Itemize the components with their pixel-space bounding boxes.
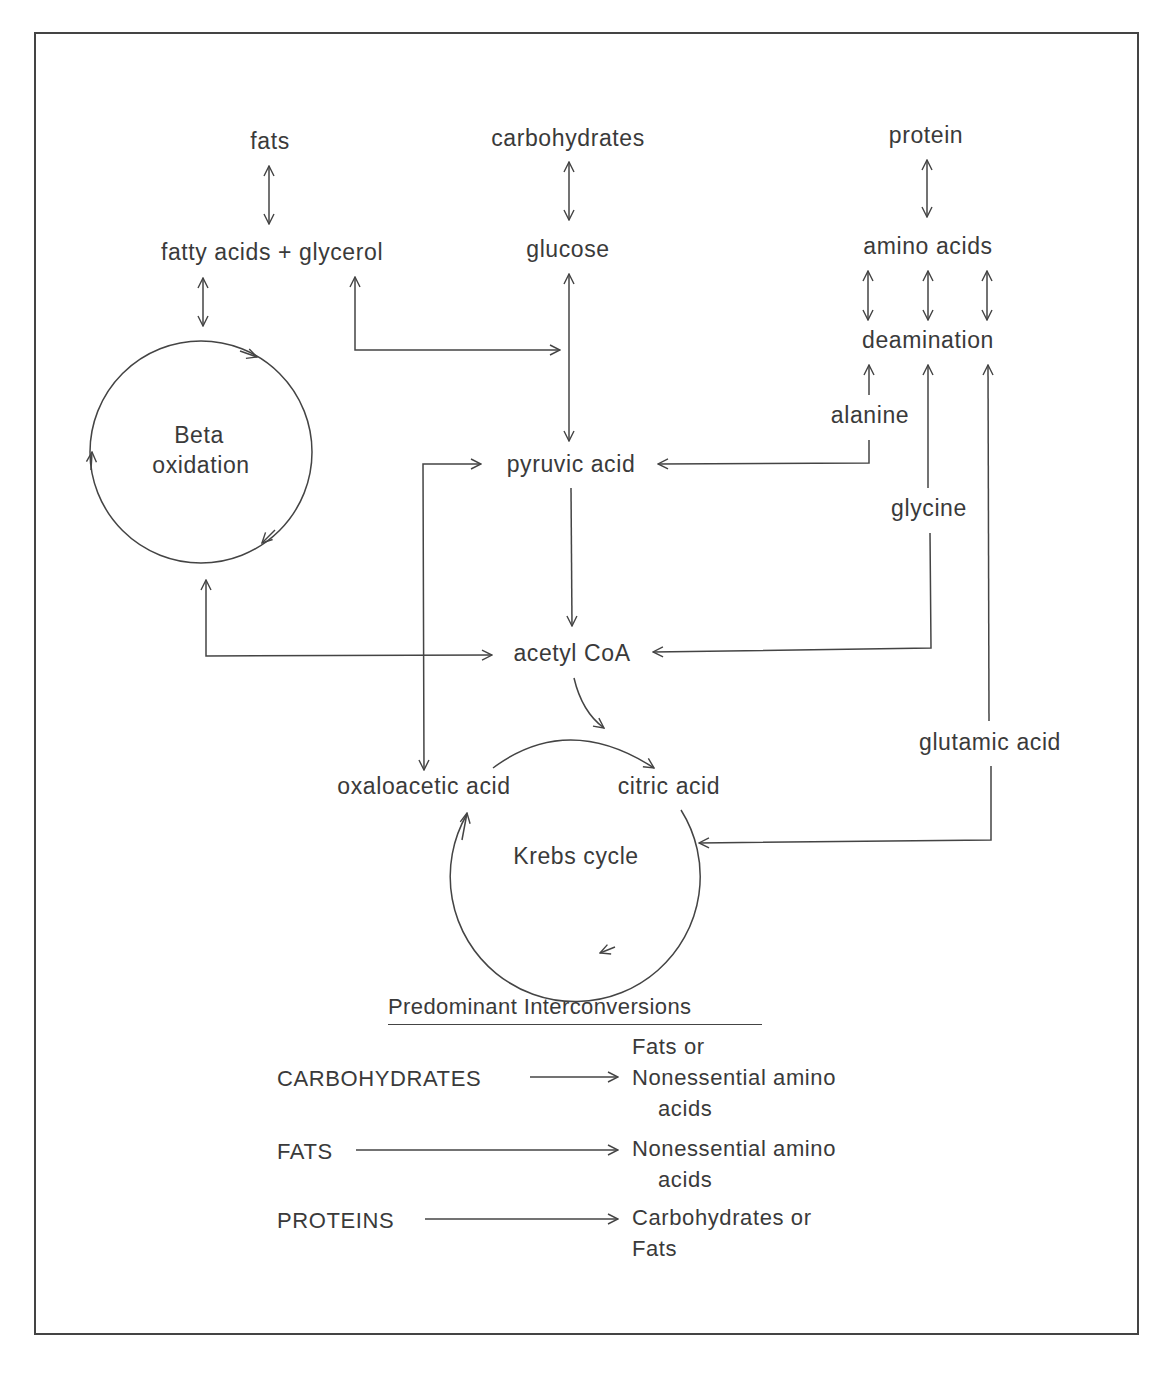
node-beta-oxidation-line1: Beta: [174, 424, 224, 447]
metabolic-pathway-diagram: [0, 0, 1152, 1390]
node-pyruvic-acid: pyruvic acid: [507, 453, 636, 476]
edge-glycerol-glucosepath: [355, 277, 560, 350]
node-glucose: glucose: [526, 238, 609, 261]
legend-source-carbohydrates: CARBOHYDRATES: [277, 1063, 481, 1094]
legend-target-line: Fats: [632, 1233, 812, 1264]
krebs-cycle-circle: [450, 810, 700, 1002]
legend-target-carbohydrates: Fats or Nonessential amino acids: [632, 1031, 836, 1124]
edge-pyruvic-acetylcoa: [571, 488, 572, 626]
legend-target-line: acids: [632, 1164, 836, 1195]
edge-alanine-pyruvic: [658, 440, 869, 464]
node-beta-oxidation-line2: oxidation: [152, 454, 249, 477]
beta-arrow-left: [91, 452, 92, 470]
krebs-top-arc: [493, 740, 654, 768]
node-fatty-acids-glycerol: fatty acids + glycerol: [161, 241, 383, 264]
edge-glutamic-deamination: [988, 365, 989, 721]
node-protein: protein: [889, 124, 964, 147]
legend-source-proteins: PROTEINS: [277, 1205, 394, 1236]
node-glutamic-acid: glutamic acid: [919, 731, 1061, 754]
legend-title: Predominant Interconversions: [388, 994, 762, 1025]
legend-target-line: Fats or: [632, 1031, 836, 1062]
legend-target-fats: Nonessential amino acids: [632, 1133, 836, 1195]
legend-target-line: acids: [632, 1093, 836, 1124]
node-alanine: alanine: [831, 404, 909, 427]
node-citric-acid: citric acid: [618, 775, 720, 798]
node-carbohydrates: carbohydrates: [491, 127, 645, 150]
node-oxaloacetic-acid: oxaloacetic acid: [337, 775, 510, 798]
node-fats: fats: [250, 130, 289, 153]
node-glycine: glycine: [891, 497, 967, 520]
edge-glutamic-krebs: [699, 766, 991, 843]
legend-target-line: Nonessential amino: [632, 1133, 836, 1164]
node-amino-acids: amino acids: [863, 235, 992, 258]
legend-target-line: Nonessential amino: [632, 1062, 836, 1093]
edge-acetylcoa-citric: [574, 678, 604, 728]
edge-glycine-acetylcoa: [653, 533, 931, 652]
legend-target-proteins: Carbohydrates or Fats: [632, 1202, 812, 1264]
legend-source-fats: FATS: [277, 1136, 333, 1167]
edge-pyruvic-oxaloacetic: [423, 464, 481, 770]
node-deamination: deamination: [862, 329, 994, 352]
node-acetyl-coa: acetyl CoA: [513, 642, 630, 665]
edge-beta-acetylcoa: [206, 580, 492, 656]
node-krebs-cycle: Krebs cycle: [513, 845, 638, 868]
legend-target-line: Carbohydrates or: [632, 1202, 812, 1233]
krebs-arrow-bottom: [600, 947, 615, 953]
